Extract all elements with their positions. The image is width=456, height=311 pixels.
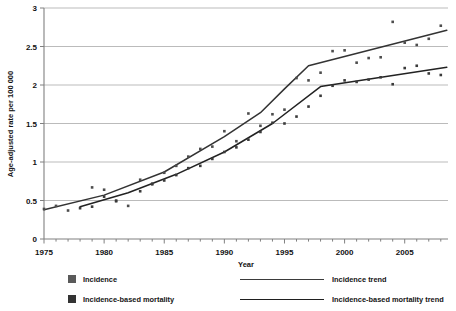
x-axis-tick-labels: 1975198019851990199520002005 [35, 248, 414, 257]
legend-item-incidence-trend: Incidence trend [240, 271, 456, 287]
x-axis-title: Year [238, 260, 254, 269]
legend-swatch-square-mortality [68, 295, 76, 303]
legend-item-mortality: Incidence-based mortality [68, 291, 258, 307]
x-axis-ticks [44, 239, 441, 244]
svg-text:1: 1 [33, 158, 38, 167]
svg-text:1995: 1995 [276, 248, 294, 257]
svg-text:2000: 2000 [336, 248, 354, 257]
svg-text:1.5: 1.5 [26, 120, 38, 129]
svg-text:1985: 1985 [155, 248, 173, 257]
svg-text:1975: 1975 [35, 248, 53, 257]
svg-text:0.5: 0.5 [26, 197, 38, 206]
legend-label-incidence-trend: Incidence trend [332, 275, 387, 284]
legend-swatch-line-mortality-trend [240, 299, 324, 300]
scatter-points [43, 21, 442, 212]
chart-plot-area: 00.511.522.53 19751980198519901995200020… [0, 0, 456, 311]
y-axis-title: Age-adjusted rate per 100 000 [6, 71, 15, 177]
legend-label-mortality-trend: Incidence-based mortality trend [332, 295, 444, 304]
svg-text:2005: 2005 [396, 248, 414, 257]
legend-swatch-square-incidence [68, 275, 76, 283]
svg-text:0: 0 [33, 235, 38, 244]
legend-label-mortality: Incidence-based mortality [83, 295, 174, 304]
svg-text:2: 2 [33, 81, 38, 90]
svg-text:1990: 1990 [215, 248, 233, 257]
legend-item-mortality-trend: Incidence-based mortality trend [240, 291, 456, 307]
legend-item-incidence: Incidence [68, 271, 258, 287]
chart-figure: 00.511.522.53 19751980198519901995200020… [0, 0, 456, 311]
legend-label-incidence: Incidence [83, 275, 117, 284]
chart-legend: Incidence Incidence trend Incidence-base… [44, 271, 456, 311]
y-axis-ticks [40, 8, 44, 239]
trend-lines [44, 30, 447, 209]
gridlines [44, 8, 448, 201]
svg-text:2.5: 2.5 [26, 43, 38, 52]
svg-text:3: 3 [33, 4, 38, 13]
y-axis-tick-labels: 00.511.522.53 [26, 4, 38, 244]
legend-swatch-line-incidence-trend [240, 279, 324, 280]
svg-text:1980: 1980 [95, 248, 113, 257]
